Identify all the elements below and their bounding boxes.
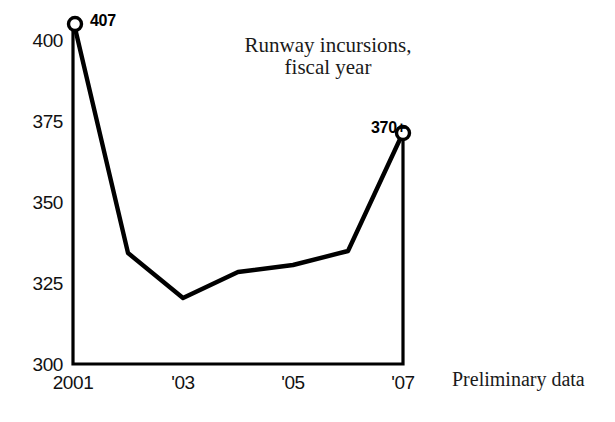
x-tick-2001: 2001 bbox=[43, 372, 103, 394]
y-tick-325: 325 bbox=[8, 273, 63, 295]
chart-title-line-1: Runway incursions, bbox=[228, 34, 428, 56]
chart-title-line-2: fiscal year bbox=[228, 56, 428, 78]
x-tick-2007: '07 bbox=[375, 372, 431, 394]
marker-2001-icon bbox=[69, 18, 82, 31]
x-tick-2005: '05 bbox=[265, 372, 321, 394]
y-tick-400: 400 bbox=[8, 30, 63, 52]
x-tick-2003: '03 bbox=[155, 372, 211, 394]
chart-title: Runway incursions, fiscal year bbox=[228, 34, 428, 78]
data-label-407: 407 bbox=[90, 12, 116, 30]
y-tick-350: 350 bbox=[8, 192, 63, 214]
y-tick-375: 375 bbox=[8, 111, 63, 133]
runway-incursions-chart: 400 375 350 325 300 2001 '03 '05 '07 407… bbox=[0, 0, 615, 422]
data-label-370plus: 370+ bbox=[371, 119, 406, 137]
footnote-preliminary-data: Preliminary data bbox=[452, 368, 585, 391]
